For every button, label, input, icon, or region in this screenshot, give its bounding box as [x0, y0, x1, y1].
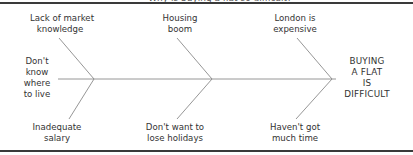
effect-line: BUYING — [338, 56, 396, 67]
cause-line: know — [18, 67, 56, 78]
cause-line: Don't — [18, 56, 56, 67]
branch-bottom-1 — [69, 79, 94, 119]
cause-line: boom — [158, 24, 202, 35]
bottom-border-rule — [0, 150, 413, 152]
cause-line: London is — [270, 13, 320, 24]
branch-top-2 — [177, 38, 212, 79]
cause-line: Lack of market — [30, 13, 90, 24]
cause-line: Inadequate — [32, 122, 82, 133]
cause-label-bottom-1: Inadequate salary — [32, 122, 82, 144]
cause-line: expensive — [270, 24, 320, 35]
branch-top-3 — [297, 38, 332, 79]
cause-label-bottom-2: Don't want to lose holidays — [145, 122, 205, 144]
effect-line: DIFFICULT — [338, 89, 396, 100]
cause-label-top-3: London is expensive — [270, 13, 320, 35]
cause-line: where — [18, 78, 56, 89]
cause-label-left: Don't know where to live — [18, 56, 56, 100]
effect-line: IS — [338, 78, 396, 89]
cause-line: knowledge — [30, 24, 90, 35]
cause-line: Don't want to — [145, 122, 205, 133]
branch-top-1 — [59, 38, 94, 79]
cause-line: Haven't got — [268, 122, 322, 133]
effect-line: A FLAT — [338, 67, 396, 78]
cause-line: lose holidays — [145, 133, 205, 144]
cause-line: Housing — [158, 13, 202, 24]
effect-label: BUYING A FLAT IS DIFFICULT — [338, 56, 396, 100]
cause-label-bottom-3: Haven't got much time — [268, 122, 322, 144]
cause-line: much time — [268, 133, 322, 144]
cause-label-top-2: Housing boom — [158, 13, 202, 35]
branch-bottom-3 — [296, 79, 332, 119]
branch-bottom-2 — [177, 79, 212, 119]
cause-line: salary — [32, 133, 82, 144]
cause-line: to live — [18, 89, 56, 100]
cause-label-top-1: Lack of market knowledge — [30, 13, 90, 35]
